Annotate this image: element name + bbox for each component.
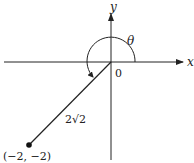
x-axis-label: x [187, 55, 194, 69]
radius-segment [29, 62, 111, 145]
polar-diagram: y x 0 θ 2√2 (−2, −2) [0, 0, 194, 163]
point-dot [26, 142, 32, 148]
theta-label: θ [127, 34, 135, 48]
y-axis-label: y [109, 0, 117, 14]
origin-label: 0 [115, 67, 122, 80]
segment-length-label: 2√2 [65, 113, 86, 126]
point-label: (−2, −2) [3, 150, 51, 163]
